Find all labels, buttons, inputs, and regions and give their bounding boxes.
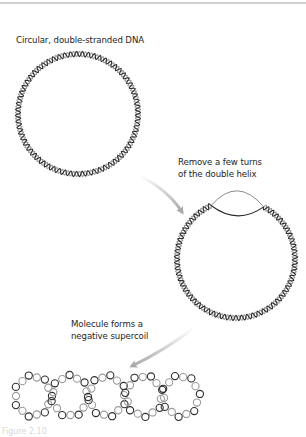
helix-bead <box>59 375 66 382</box>
helix-bead <box>191 407 198 414</box>
helix-bead <box>139 373 146 380</box>
helix-bead <box>33 374 40 381</box>
helix-bead <box>81 379 88 386</box>
helix-bead <box>53 405 60 412</box>
helix-bead <box>196 390 203 397</box>
helix-bead <box>73 375 80 382</box>
helix-bead <box>91 377 98 384</box>
helix-bead <box>19 378 26 385</box>
helix-bead <box>88 401 95 408</box>
helix-bead <box>51 380 58 387</box>
helix-bead <box>147 373 154 380</box>
helix-strand-light <box>174 205 297 320</box>
helix-bead <box>153 380 160 387</box>
negative-supercoil-dna <box>12 371 203 420</box>
helix-bead <box>142 413 149 420</box>
label-negative-supercoil: Molecule forms a negative supercoil <box>71 319 148 342</box>
supercoil-loop <box>160 372 204 420</box>
supercoil-loop <box>122 373 166 421</box>
dna-supercoiling-diagram <box>0 0 306 437</box>
helix-bead <box>67 411 74 418</box>
helix-bead <box>115 407 122 414</box>
helix-bead <box>166 379 173 386</box>
supercoil-loop <box>12 372 55 420</box>
relaxed-circular-dna <box>15 51 140 176</box>
label-remove-turns-line2: of the double helix <box>178 169 262 181</box>
helix-bead <box>59 412 66 419</box>
helix-bead <box>19 407 26 414</box>
helix-bead <box>156 404 163 411</box>
helix-strand-dark <box>15 51 140 176</box>
helix-bead <box>25 372 32 379</box>
helix-bead <box>168 408 175 415</box>
helix-bead <box>75 411 82 418</box>
helix-bead <box>175 413 182 420</box>
label-circular-dna-text: Circular, double-stranded DNA <box>16 35 144 47</box>
helix-bead <box>113 377 120 384</box>
label-negative-supercoil-line1: Molecule forms a <box>71 319 148 331</box>
helix-bead <box>126 407 133 414</box>
label-remove-turns-line1: Remove a few turns <box>178 157 262 169</box>
helix-bead <box>92 409 99 416</box>
figure-caption: Figure 2.10 <box>2 427 47 436</box>
helix-bead <box>100 411 107 418</box>
helix-bead <box>149 409 156 416</box>
helix-bead <box>171 372 178 379</box>
helix-bead <box>131 374 138 381</box>
separated-strand-lower <box>211 206 264 216</box>
helix-bead <box>33 411 40 418</box>
helix-bead <box>12 383 19 390</box>
helix-bead <box>134 410 141 417</box>
helix-bead <box>192 383 199 390</box>
helix-bead <box>109 413 116 420</box>
label-negative-supercoil-line2: negative supercoil <box>71 331 148 343</box>
helix-bead <box>12 402 19 409</box>
helix-bead <box>161 403 168 410</box>
helix-bead <box>80 404 87 411</box>
arrow-step-1-to-2 <box>140 176 182 212</box>
helix-bead <box>66 371 73 378</box>
helix-bead <box>180 374 187 381</box>
helix-bead <box>193 399 200 406</box>
helix-bead <box>41 409 48 416</box>
helix-bead <box>188 375 195 382</box>
helix-bead <box>122 389 129 396</box>
helix-bead <box>25 413 32 420</box>
helix-strand-light <box>15 51 140 176</box>
helix-bead <box>107 372 114 379</box>
helix-bead <box>41 376 48 383</box>
helix-bead <box>183 410 190 417</box>
helix-bead <box>12 392 19 399</box>
label-circular-dna: Circular, double-stranded DNA <box>16 35 144 47</box>
helix-bead <box>99 374 106 381</box>
unwound-circular-dna <box>174 191 297 321</box>
label-remove-turns: Remove a few turns of the double helix <box>178 157 262 180</box>
separated-strand-upper <box>211 191 264 207</box>
supercoil-loop <box>84 372 128 420</box>
